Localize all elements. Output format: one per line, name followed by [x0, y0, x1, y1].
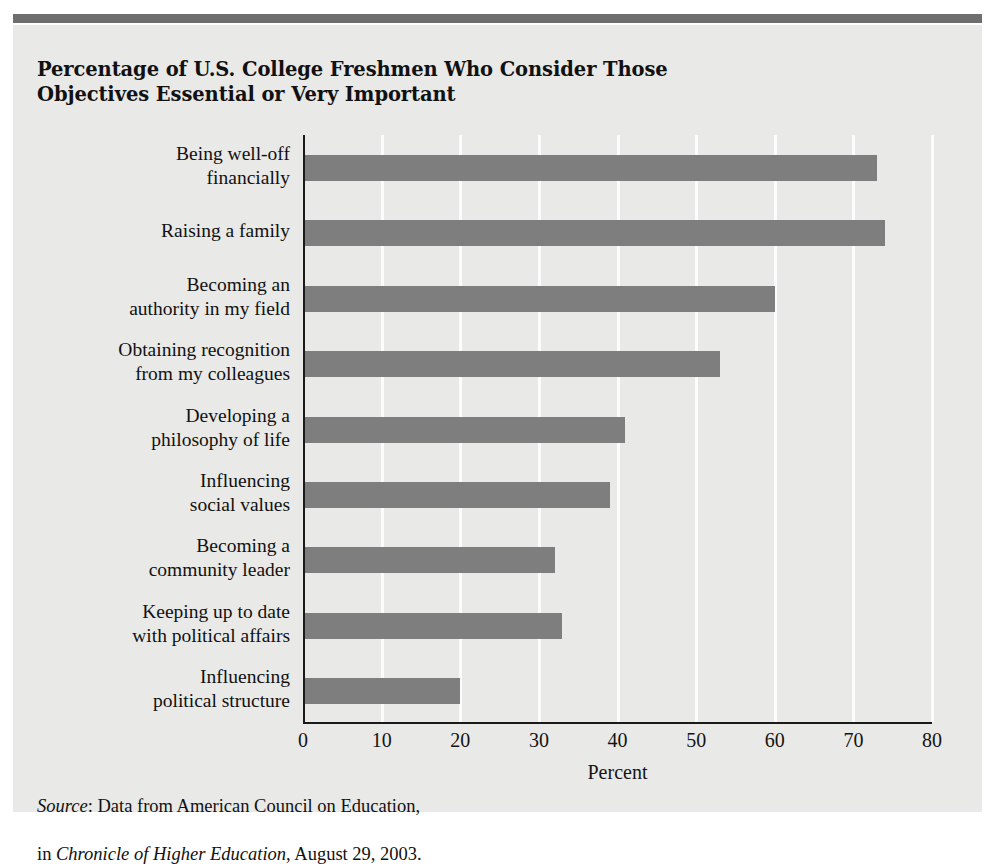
bar-7	[303, 613, 562, 639]
chart-panel: Percentage of U.S. College Freshmen Who …	[13, 25, 982, 812]
category-label-8: Influencing political structure	[0, 665, 290, 713]
bar-0	[303, 155, 877, 181]
category-label-7: Keeping up to date with political affair…	[0, 600, 290, 648]
category-label-1: Raising a family	[0, 219, 290, 243]
bar-5	[303, 482, 610, 508]
x-tick-10: 10	[372, 729, 392, 752]
x-tick-20: 20	[450, 729, 470, 752]
source-line-2-rest: , August 29, 2003.	[286, 844, 422, 864]
source-note: Source: Data from American Council on Ed…	[37, 770, 422, 866]
x-tick-70: 70	[843, 729, 863, 752]
x-axis-line	[303, 722, 932, 724]
x-tick-0: 0	[298, 729, 308, 752]
x-tick-30: 30	[529, 729, 549, 752]
x-tick-60: 60	[765, 729, 785, 752]
category-label-2: Becoming an authority in my field	[0, 273, 290, 321]
bar-6	[303, 547, 555, 573]
x-tick-40: 40	[608, 729, 628, 752]
chart-title: Percentage of U.S. College Freshmen Who …	[37, 57, 737, 107]
source-line-1: : Data from American Council on Educatio…	[88, 796, 420, 816]
figure: Percentage of U.S. College Freshmen Who …	[13, 14, 982, 812]
category-label-0: Being well-off financially	[0, 142, 290, 190]
x-tick-50: 50	[686, 729, 706, 752]
category-label-3: Obtaining recognition from my colleagues	[0, 338, 290, 386]
bar-2	[303, 286, 775, 312]
y-axis-line	[303, 135, 305, 724]
bar-4	[303, 417, 625, 443]
category-label-4: Developing a philosophy of life	[0, 404, 290, 452]
category-label-5: Influencing social values	[0, 469, 290, 517]
source-line-2-lead: in	[37, 844, 56, 864]
bar-8	[303, 678, 460, 704]
category-label-6: Becoming a community leader	[0, 534, 290, 582]
bar-1	[303, 220, 885, 246]
bar-3	[303, 351, 720, 377]
gridline-80	[931, 135, 934, 722]
source-publication: Chronicle of Higher Education	[56, 844, 286, 864]
top-rule	[13, 14, 982, 23]
plot-area: Being well-off financiallyRaising a fami…	[303, 135, 932, 724]
source-label: Source	[37, 796, 88, 816]
x-tick-80: 80	[922, 729, 942, 752]
